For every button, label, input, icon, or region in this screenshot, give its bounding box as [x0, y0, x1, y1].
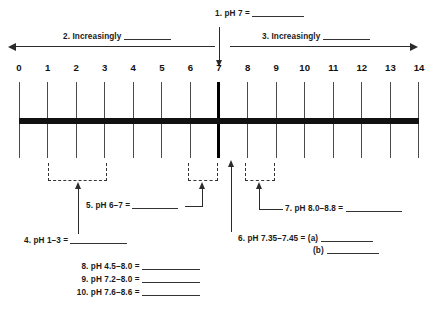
scale-number-14: 14 [414, 62, 425, 73]
label-increasingly-right: 3. Increasingly [262, 32, 370, 41]
label-ph7.35-7.45-a: 6. pH 7.35–7.45 = (a) [238, 234, 373, 243]
scale-number-7: 7 [216, 62, 221, 73]
answer-blank-8[interactable] [142, 269, 200, 270]
answer-blank-6a[interactable] [321, 241, 373, 242]
ph-scale-bar [19, 118, 419, 124]
scale-number-6: 6 [188, 62, 193, 73]
answer-blank-1[interactable] [252, 16, 304, 17]
label-bottom-8: 8. pH 4.5–8.0 = [0, 262, 200, 271]
bracket-arrowhead-ph1-3 [75, 182, 81, 189]
scale-number-2: 2 [73, 62, 78, 73]
scale-number-11: 11 [328, 62, 338, 73]
arrow-left-shaft [16, 46, 215, 47]
ph-scale-diagram: 1. pH 7 = 2. Increasingly 3. Increasingl… [0, 0, 441, 310]
label-ph8-8.8: 7. pH 8.0–8.8 = [285, 204, 402, 213]
scale-number-1: 1 [45, 62, 50, 73]
bracket-ph-6-to-7 [188, 163, 219, 181]
arrow-right-head [410, 43, 418, 51]
bracket-ph-1-to-3 [48, 163, 107, 181]
answer-blank-3[interactable] [323, 39, 370, 40]
label-increasingly-left: 2. Increasingly [63, 32, 171, 41]
bracket-ph-8-to-8.8 [245, 163, 276, 181]
answer-blank-4[interactable] [70, 243, 127, 244]
answer-blank-7[interactable] [346, 211, 402, 212]
label-bottom-text-9: 9. pH 7.2–8.0 = [81, 275, 142, 284]
scale-number-3: 3 [102, 62, 107, 73]
scale-number-0: 0 [16, 62, 21, 73]
label-bottom-text-10: 10. pH 7.6–8.6 = [77, 288, 142, 297]
answer-blank-10[interactable] [142, 295, 200, 296]
label-bottom-text-8: 8. pH 4.5–8.0 = [81, 262, 142, 271]
label-bottom-10: 10. pH 7.6–8.6 = [0, 288, 200, 297]
leader-line-ph8-8.8-horizontal [259, 209, 283, 210]
label-ph7.35-7.45-b: (b) [313, 246, 379, 255]
pointer-arrowhead-ph7.35-7.45 [228, 160, 234, 167]
scale-number-9: 9 [273, 62, 278, 73]
scale-number-5: 5 [159, 62, 164, 73]
label-ph6-7: 5. pH 6–7 = [86, 201, 178, 210]
bracket-arrowhead-ph8-8.8 [256, 182, 262, 189]
arrow-right-shaft [230, 46, 410, 47]
leader-line-ph6-7-horizontal [185, 206, 203, 207]
scale-number-13: 13 [385, 62, 396, 73]
pointer-line-ph7.35-7.45 [231, 167, 232, 232]
label-ph1-3: 4. pH 1–3 = [24, 236, 127, 245]
answer-blank-9[interactable] [142, 282, 200, 283]
leader-line-ph1-3 [78, 189, 79, 234]
label-bottom-9: 9. pH 7.2–8.0 = [0, 275, 200, 284]
answer-blank-5[interactable] [132, 208, 178, 209]
scale-number-10: 10 [299, 62, 310, 73]
leader-line-ph8-8.8-vertical [259, 189, 260, 209]
scale-number-8: 8 [245, 62, 250, 73]
scale-number-12: 12 [357, 62, 368, 73]
answer-blank-6b[interactable] [327, 253, 379, 254]
answer-blank-2[interactable] [124, 39, 171, 40]
label-ph7-neutral: 1. pH 7 = [215, 9, 304, 18]
leader-line-ph6-7-vertical [202, 189, 203, 206]
scale-number-4: 4 [131, 62, 136, 73]
bracket-arrowhead-ph6-7 [199, 182, 205, 189]
pointer-line-ph7 [219, 27, 220, 62]
arrow-left-head [8, 43, 16, 51]
